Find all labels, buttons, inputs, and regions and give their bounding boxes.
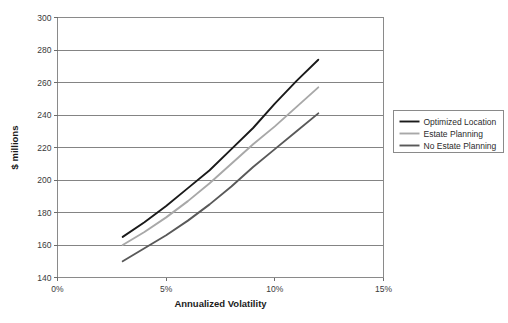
gridlines (58, 18, 384, 278)
svg-text:140: 140 (37, 273, 51, 283)
x-axis-ticks (58, 278, 384, 282)
svg-text:220: 220 (37, 143, 51, 153)
legend-label: No Estate Planning (424, 141, 497, 151)
svg-text:15%: 15% (375, 284, 392, 294)
svg-text:280: 280 (37, 45, 51, 55)
legend[interactable]: Optimized LocationEstate PlanningNo Esta… (394, 111, 504, 153)
x-axis-title: Annualized Volatility (174, 298, 267, 309)
legend-label: Estate Planning (424, 129, 484, 139)
line-chart: 140160180200220240260280300 0%5%10%15% $… (0, 0, 508, 323)
svg-text:160: 160 (37, 240, 51, 250)
y-axis-ticks (54, 18, 58, 278)
legend-label: Optimized Location (424, 117, 497, 127)
svg-text:300: 300 (37, 13, 51, 23)
y-axis-tick-labels: 140160180200220240260280300 (37, 13, 51, 283)
svg-text:5%: 5% (160, 284, 173, 294)
svg-text:200: 200 (37, 175, 51, 185)
x-axis-tick-labels: 0%5%10%15% (51, 284, 392, 294)
y-axis-title: $ millions (9, 126, 20, 170)
series-line (123, 60, 319, 237)
chart-container: 140160180200220240260280300 0%5%10%15% $… (0, 0, 508, 323)
data-series (123, 60, 319, 262)
svg-text:10%: 10% (266, 284, 283, 294)
svg-text:260: 260 (37, 78, 51, 88)
svg-text:180: 180 (37, 208, 51, 218)
svg-text:240: 240 (37, 110, 51, 120)
svg-text:0%: 0% (51, 284, 64, 294)
series-line (123, 113, 319, 261)
series-line (123, 87, 319, 245)
